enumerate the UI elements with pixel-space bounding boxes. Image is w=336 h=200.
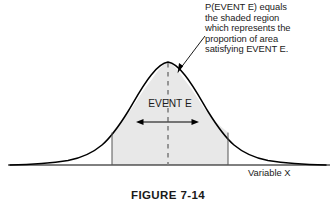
event-e-label: EVENT E	[112, 98, 228, 110]
figure-caption: FIGURE 7-14	[0, 189, 336, 200]
figure-container: P(EVENT E) equals the shaded region whic…	[0, 0, 336, 200]
shaded-event-region	[112, 62, 228, 165]
callout-pointer-arrow	[178, 36, 205, 73]
x-axis-label: Variable X	[248, 168, 291, 179]
callout-note: P(EVENT E) equals the shaded region whic…	[205, 2, 336, 55]
